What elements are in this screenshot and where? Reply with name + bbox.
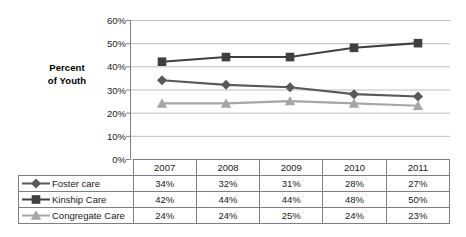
series-congregate-care xyxy=(157,96,423,110)
table-cell-kinship-care-2010: 48% xyxy=(323,192,386,208)
line-chart-canvas xyxy=(0,0,466,170)
diamond-marker-icon xyxy=(21,177,51,190)
table-cell-foster-care-2008: 32% xyxy=(196,176,259,192)
data-table: 2007 2008 2009 2010 2011 Foster care34%3… xyxy=(18,159,450,224)
table-header-year-1: 2008 xyxy=(196,160,259,176)
table-cell-congregate-care-2009: 25% xyxy=(260,208,323,224)
triangle-marker-icon xyxy=(21,209,51,222)
table-header-year-4: 2011 xyxy=(386,160,449,176)
square-glyph xyxy=(32,195,41,204)
legend-cell-congregate-care: Congregate Care xyxy=(19,208,134,224)
square-marker-icon xyxy=(21,193,51,206)
data-point-diamond-2010 xyxy=(349,89,359,99)
chart-figure: Percent of Youth 0%10%20%30%40%50%60% 20… xyxy=(0,0,466,237)
table-row: Kinship Care42%44%44%48%50% xyxy=(19,192,450,208)
table-row: Foster care34%32%31%28%27% xyxy=(19,176,450,192)
table-row: Congregate Care24%24%25%24%23% xyxy=(19,208,450,224)
legend-entry: Congregate Care xyxy=(21,209,133,222)
table-body: Foster care34%32%31%28%27%Kinship Care42… xyxy=(19,176,450,224)
table-cell-foster-care-2007: 34% xyxy=(133,176,196,192)
table-cell-kinship-care-2007: 42% xyxy=(133,192,196,208)
legend-label: Kinship Care xyxy=(52,193,106,206)
data-point-square-2011 xyxy=(414,39,423,48)
table-cell-foster-care-2010: 28% xyxy=(323,176,386,192)
table-cell-kinship-care-2009: 44% xyxy=(260,192,323,208)
table-header-row: 2007 2008 2009 2010 2011 xyxy=(19,160,450,176)
table-cell-congregate-care-2011: 23% xyxy=(386,208,449,224)
table-cell-foster-care-2009: 31% xyxy=(260,176,323,192)
table-header-year-2: 2009 xyxy=(260,160,323,176)
legend-label: Foster care xyxy=(52,177,100,190)
table-cell-foster-care-2011: 27% xyxy=(386,176,449,192)
legend-cell-kinship-care: Kinship Care xyxy=(19,192,134,208)
table-cell-kinship-care-2011: 50% xyxy=(386,192,449,208)
table-header-year-3: 2010 xyxy=(323,160,386,176)
data-point-diamond-2011 xyxy=(413,91,423,101)
legend-cell-foster-care: Foster care xyxy=(19,176,134,192)
data-point-diamond-2008 xyxy=(221,80,231,90)
table-cell-congregate-care-2010: 24% xyxy=(323,208,386,224)
legend-label: Congregate Care xyxy=(52,209,125,222)
data-point-square-2009 xyxy=(286,53,295,62)
data-point-diamond-2007 xyxy=(157,75,167,85)
data-point-square-2007 xyxy=(158,57,167,66)
table-cell-congregate-care-2007: 24% xyxy=(133,208,196,224)
table-cell-kinship-care-2008: 44% xyxy=(196,192,259,208)
table-cell-congregate-care-2008: 24% xyxy=(196,208,259,224)
table-header-year-0: 2007 xyxy=(133,160,196,176)
series-kinship-care xyxy=(158,39,423,66)
data-point-square-2008 xyxy=(222,53,231,62)
plot-area: 0%10%20%30%40%50%60% xyxy=(0,0,466,170)
legend-entry: Foster care xyxy=(21,177,133,190)
legend-entry: Kinship Care xyxy=(21,193,133,206)
data-point-square-2010 xyxy=(350,44,359,53)
table-head: 2007 2008 2009 2010 2011 xyxy=(19,160,450,176)
data-point-diamond-2009 xyxy=(285,82,295,92)
diamond-glyph xyxy=(31,179,41,189)
table-header-blank xyxy=(19,160,134,176)
